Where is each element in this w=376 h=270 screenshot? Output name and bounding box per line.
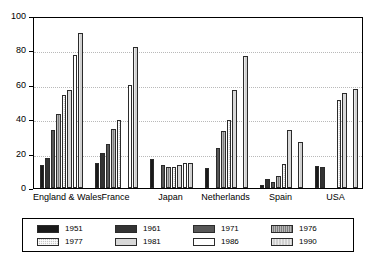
x-axis-label: France (88, 192, 143, 203)
bar (51, 130, 56, 188)
y-axis-tick-label: 20 (0, 150, 26, 159)
bar (188, 163, 193, 188)
bar (227, 120, 232, 188)
bar-group (254, 18, 309, 188)
y-axis-tick-label: 0 (0, 184, 26, 193)
bar (73, 55, 78, 188)
bar-group (34, 18, 89, 188)
bar (117, 120, 122, 188)
bar (320, 167, 325, 189)
bar (177, 165, 182, 188)
legend-label: 1971 (221, 223, 239, 234)
bar (150, 159, 155, 188)
bar (40, 165, 45, 188)
bar-group (199, 18, 254, 188)
x-axis-label: Japan (143, 192, 198, 203)
bar (95, 163, 100, 188)
bar (342, 93, 347, 188)
legend-swatch-icon (271, 225, 293, 233)
bar (133, 47, 138, 188)
bar (337, 100, 342, 188)
bar (62, 95, 67, 188)
bar (166, 167, 171, 189)
bar (78, 33, 83, 188)
legend-swatch-icon (193, 238, 215, 246)
bar (205, 168, 210, 188)
bar (232, 90, 237, 188)
bar-group (144, 18, 199, 188)
y-axis: 020406080100 (0, 17, 33, 189)
legend-swatch-icon (193, 225, 215, 233)
y-axis-tick (29, 189, 33, 190)
x-axis-label: Spain (253, 192, 308, 203)
bar (106, 144, 111, 188)
x-axis-label: USA (308, 192, 363, 203)
bar (111, 129, 116, 188)
y-axis-tick-label: 80 (0, 46, 26, 55)
x-axis-label: Netherlands (198, 192, 253, 203)
bar (271, 182, 276, 188)
x-axis-label: England & Wales (33, 192, 88, 203)
legend-label: 1951 (65, 223, 83, 234)
bar-group (89, 18, 144, 188)
legend-swatch-icon (37, 225, 59, 233)
bar (287, 130, 292, 188)
legend-swatch-icon (115, 225, 137, 233)
chart-legend: 19511961197119761977198119861990 (22, 218, 354, 252)
bar (243, 56, 248, 188)
x-axis-labels: England & WalesFranceJapanNetherlandsSpa… (33, 192, 363, 206)
legend-label: 1986 (221, 236, 239, 247)
plot-area (33, 17, 363, 189)
bar (315, 166, 320, 188)
bar-group (309, 18, 364, 188)
y-axis-tick-label: 40 (0, 115, 26, 124)
bar (265, 179, 270, 188)
legend-label: 1961 (143, 223, 161, 234)
bar (298, 142, 303, 188)
y-axis-tick-label: 100 (0, 12, 26, 21)
legend-swatch-icon (115, 238, 137, 246)
bar (161, 165, 166, 188)
legend-label: 1990 (299, 236, 317, 247)
bar (216, 148, 221, 188)
bar (67, 90, 72, 188)
y-axis-tick-label: 60 (0, 81, 26, 90)
legend-label: 1976 (299, 223, 317, 234)
bar (353, 89, 358, 188)
bar (282, 164, 287, 188)
legend-swatch-icon (271, 238, 293, 246)
legend-label: 1977 (65, 236, 83, 247)
bars-layer (34, 18, 362, 188)
bar (276, 176, 281, 188)
bar-chart-figure: 020406080100 England & WalesFranceJapanN… (0, 0, 376, 270)
bar (260, 185, 265, 188)
legend-label: 1981 (143, 236, 161, 247)
bar (45, 158, 50, 188)
bar (221, 131, 226, 188)
bar (56, 114, 61, 188)
bar (183, 163, 188, 188)
bar (100, 153, 105, 188)
bar (128, 85, 133, 188)
bar (172, 167, 177, 189)
legend-swatch-icon (37, 238, 59, 246)
